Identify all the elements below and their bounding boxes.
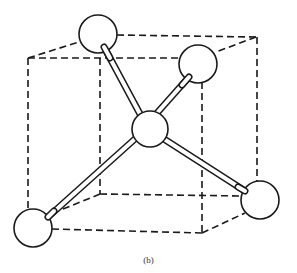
figure-caption: (b) <box>0 255 297 265</box>
atom-bottom-right <box>241 181 279 219</box>
atom-top-left <box>79 15 117 53</box>
tetrahedral-cube-diagram <box>0 0 297 273</box>
atom-center <box>132 111 168 147</box>
